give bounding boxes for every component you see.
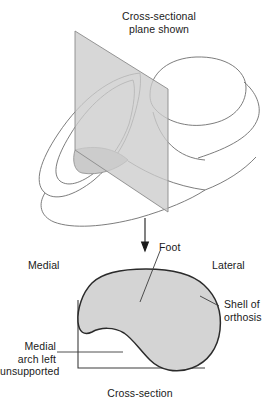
medial-arch-label: Medial arch left unsupported — [0, 340, 56, 378]
cross-section-caption: Cross-section — [82, 387, 198, 400]
lateral-label: Lateral — [212, 259, 272, 272]
top-3d-view — [39, 31, 259, 226]
cutting-plane — [75, 31, 168, 212]
cross-sectional-plane-label: Cross-sectional plane shown — [104, 10, 214, 35]
foot-sole-edge — [205, 157, 256, 190]
arrow-head — [142, 242, 149, 251]
shell-of-orthosis-label: Shell of orthosis — [224, 298, 275, 323]
transition-arrow — [142, 218, 149, 251]
foot-label: Foot — [159, 241, 199, 254]
foot-cross-section-shape — [78, 269, 221, 371]
medial-label: Medial — [28, 259, 88, 272]
